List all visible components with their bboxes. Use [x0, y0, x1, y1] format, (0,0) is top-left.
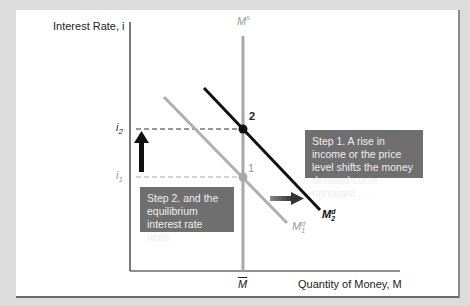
right-arrow-icon — [291, 192, 304, 205]
supply-label: Ms — [237, 14, 250, 27]
step-1-callout: Step 1. A rise in income or the price le… — [305, 130, 423, 178]
point-1-label: 1 — [248, 162, 254, 174]
equilibrium-point-2 — [239, 125, 248, 134]
i2-label: i2 — [116, 121, 123, 136]
md2-label: Md2 — [322, 208, 335, 222]
i1-label: i1 — [116, 169, 123, 184]
up-arrow-icon — [134, 131, 149, 143]
x-axis-label: Quantity of Money, M — [298, 278, 402, 290]
step-2-callout: Step 2. and the equilibrium interest rat… — [140, 187, 234, 232]
right-arrow-shaft — [270, 196, 292, 201]
m-bar-label: M — [238, 278, 247, 290]
point-2-label: 2 — [249, 110, 255, 122]
md1-label: Md1 — [292, 220, 305, 234]
equilibrium-point-1 — [239, 173, 248, 182]
up-arrow-shaft — [139, 142, 144, 172]
y-axis-label: Interest Rate, i — [53, 20, 125, 32]
